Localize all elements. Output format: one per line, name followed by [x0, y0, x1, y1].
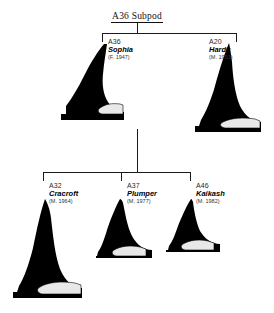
label-a20: A20 Hardy (M. 1953) [209, 38, 233, 61]
whale-name-a20: Hardy [209, 46, 233, 54]
dorsal-fin-a32 [12, 198, 84, 300]
whale-name-a36: Sophia [108, 46, 133, 54]
whale-name-a46: Kaikash [196, 190, 225, 198]
connector-drop-a36 [102, 33, 103, 42]
label-a32: A32 Cracroft (M. 1964) [49, 182, 78, 205]
page-title: A36 Subpod [0, 11, 274, 21]
connector-drop-a37 [121, 172, 122, 181]
whale-dates-a32: (M. 1964) [49, 199, 78, 205]
label-a37: A37 Plumper (M. 1977) [127, 182, 157, 205]
whale-id-a20: A20 [209, 38, 233, 45]
whale-dates-a20: (M. 1953) [209, 55, 233, 61]
whale-id-a37: A37 [127, 182, 157, 189]
whale-id-a32: A32 [49, 182, 78, 189]
page-title-text: A36 Subpod [111, 11, 163, 23]
whale-dates-a46: (M. 1982) [196, 199, 225, 205]
whale-id-a36: A36 [108, 38, 133, 45]
whale-name-a32: Cracroft [49, 190, 78, 198]
connector-couple-horizontal [102, 33, 236, 34]
whale-dates-a36: (F. 1947) [108, 55, 133, 61]
family-tree-diagram: A36 Subpod A36 Sophia (F. 1947) A20 Hard… [0, 0, 274, 313]
connector-title-stem [137, 23, 138, 33]
connector-drop-a32 [43, 172, 44, 181]
connector-drop-a20 [236, 33, 237, 42]
connector-family-stem [137, 129, 138, 172]
connector-siblings-horizontal [43, 172, 190, 173]
label-a36: A36 Sophia (F. 1947) [108, 38, 133, 61]
dorsal-fin-a37 [96, 198, 154, 260]
dorsal-fin-a46 [166, 198, 224, 254]
whale-name-a37: Plumper [127, 190, 157, 198]
connector-drop-a46 [190, 172, 191, 181]
label-a46: A46 Kaikash (M. 1982) [196, 182, 225, 205]
whale-id-a46: A46 [196, 182, 225, 189]
whale-dates-a37: (M. 1977) [127, 199, 157, 205]
